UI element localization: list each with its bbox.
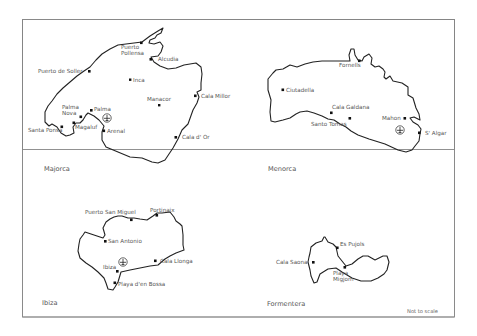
label-es-pujols: Es Pujols [340, 241, 365, 247]
marker-cala-dor [175, 136, 178, 139]
label-cala-dor: Cala d' Or [182, 134, 210, 140]
island-name-formentera: Formentera [267, 300, 305, 308]
label-cala-saona: Cala Saona [276, 259, 307, 265]
label-portinaix: Portinaix [150, 207, 174, 213]
label-palma: Palma [94, 106, 111, 112]
label-playa-den-bossa: Playa d'en Bossa [118, 281, 165, 287]
label-fornells: Fornells [339, 62, 361, 68]
airport-icon [119, 258, 127, 266]
marker-s-algar [418, 132, 421, 135]
island-name-ibiza: Ibiza [42, 299, 57, 307]
marker-playa-migjorn [344, 266, 347, 269]
not-to-scale-note: Not to scale [407, 308, 438, 314]
label-arenal: Arenal [107, 128, 125, 134]
marker-palma-nova [80, 116, 83, 119]
label-puerto-pollensa: Puerto Pollensa [121, 44, 144, 57]
marker-inca [129, 79, 131, 81]
place-markers [61, 42, 421, 285]
island-name-menorca: Menorca [268, 165, 296, 173]
marker-santo-tomas [349, 117, 352, 120]
marker-palma [90, 109, 93, 112]
marker-manacor [158, 104, 160, 106]
label-puerto-san-miguel: Puerto San Miguel [85, 209, 136, 215]
label-playa-migjorn: Playa Migjorn [333, 270, 354, 283]
label-inca: Inca [133, 77, 145, 83]
label-cala-millor: Cala Millor [201, 93, 230, 99]
label-palma-nova: Palma Nova [62, 104, 79, 117]
label-manacor: Manacor [147, 96, 171, 102]
label-santo-tomas: Santo Tomas [311, 121, 347, 127]
marker-cala-saona [312, 261, 315, 264]
marker-san-antonio [104, 240, 107, 243]
label-ciutadella: Ciutadella [286, 87, 314, 93]
label-san-antonio: San Antonio [108, 238, 142, 244]
label-magaluf: Magaluf [75, 124, 97, 130]
label-cala-llonga: Cala Llonga [160, 258, 193, 264]
ibiza-coastline [78, 212, 184, 290]
marker-cala-millor [194, 95, 197, 98]
label-ibiza-town: Ibiza [103, 264, 116, 270]
airport-icon [396, 126, 404, 134]
marker-ciutadella [282, 89, 285, 92]
marker-puerto-de-soller [88, 70, 91, 73]
marker-cala-llonga [154, 260, 157, 263]
map-canvas [0, 0, 477, 336]
label-puerto-de-soller: Puerto de Soller [38, 68, 83, 74]
marker-cala-galdana [330, 112, 333, 115]
label-alcudia: Alcudia [158, 56, 179, 62]
marker-portinaix [156, 214, 159, 217]
marker-playa-den-bossa [114, 282, 117, 285]
label-cala-galdana: Cala Galdana [332, 104, 369, 110]
airport-icon [103, 114, 111, 122]
marker-mahon [404, 117, 407, 120]
marker-alcudia [150, 58, 153, 61]
label-santa-ponsa: Santa Ponsa [28, 127, 62, 133]
marker-arenal [103, 130, 106, 133]
marker-es-pujols [336, 247, 339, 250]
label-s-algar: S' Algar [425, 130, 447, 136]
marker-puerto-san-miguel [130, 219, 133, 222]
island-name-majorca: Majorca [44, 165, 70, 173]
marker-ibiza-town [116, 270, 119, 273]
label-mahon: Mahon [382, 115, 401, 121]
